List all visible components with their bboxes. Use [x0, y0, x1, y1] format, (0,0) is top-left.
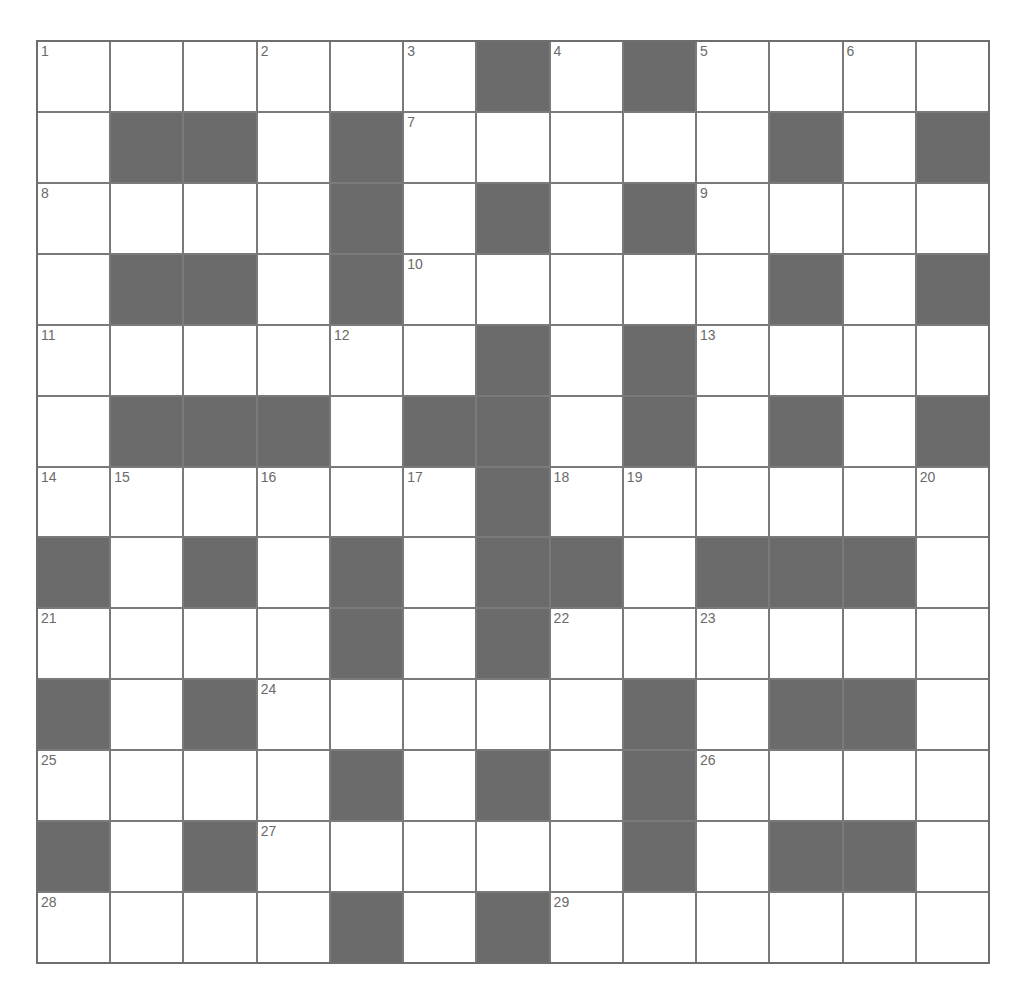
- answer-cell[interactable]: [551, 326, 622, 395]
- answer-cell[interactable]: [770, 468, 841, 537]
- answer-cell[interactable]: [697, 893, 768, 962]
- answer-cell[interactable]: [331, 822, 402, 891]
- answer-cell[interactable]: [38, 397, 109, 466]
- answer-cell[interactable]: [111, 893, 182, 962]
- answer-cell[interactable]: [258, 184, 329, 253]
- answer-cell[interactable]: [184, 751, 255, 820]
- answer-cell[interactable]: [551, 113, 622, 182]
- answer-cell[interactable]: [111, 538, 182, 607]
- answer-cell[interactable]: 9: [697, 184, 768, 253]
- answer-cell[interactable]: [770, 42, 841, 111]
- answer-cell[interactable]: [844, 326, 915, 395]
- answer-cell[interactable]: [917, 326, 988, 395]
- answer-cell[interactable]: [258, 113, 329, 182]
- answer-cell[interactable]: [331, 397, 402, 466]
- answer-cell[interactable]: [258, 893, 329, 962]
- answer-cell[interactable]: [477, 113, 548, 182]
- answer-cell[interactable]: 13: [697, 326, 768, 395]
- answer-cell[interactable]: [844, 184, 915, 253]
- answer-cell[interactable]: 15: [111, 468, 182, 537]
- answer-cell[interactable]: [844, 113, 915, 182]
- answer-cell[interactable]: [551, 751, 622, 820]
- answer-cell[interactable]: [551, 822, 622, 891]
- answer-cell[interactable]: [111, 326, 182, 395]
- answer-cell[interactable]: 7: [404, 113, 475, 182]
- answer-cell[interactable]: [844, 751, 915, 820]
- answer-cell[interactable]: [770, 751, 841, 820]
- answer-cell[interactable]: 3: [404, 42, 475, 111]
- answer-cell[interactable]: 1: [38, 42, 109, 111]
- answer-cell[interactable]: 5: [697, 42, 768, 111]
- answer-cell[interactable]: 21: [38, 609, 109, 678]
- answer-cell[interactable]: [697, 468, 768, 537]
- answer-cell[interactable]: 22: [551, 609, 622, 678]
- answer-cell[interactable]: [624, 255, 695, 324]
- answer-cell[interactable]: [477, 255, 548, 324]
- answer-cell[interactable]: [404, 538, 475, 607]
- answer-cell[interactable]: [184, 893, 255, 962]
- answer-cell[interactable]: [111, 42, 182, 111]
- answer-cell[interactable]: [917, 538, 988, 607]
- answer-cell[interactable]: [697, 113, 768, 182]
- answer-cell[interactable]: [844, 397, 915, 466]
- answer-cell[interactable]: 27: [258, 822, 329, 891]
- answer-cell[interactable]: 17: [404, 468, 475, 537]
- answer-cell[interactable]: [184, 468, 255, 537]
- answer-cell[interactable]: 2: [258, 42, 329, 111]
- answer-cell[interactable]: [697, 680, 768, 749]
- answer-cell[interactable]: [917, 184, 988, 253]
- answer-cell[interactable]: 16: [258, 468, 329, 537]
- answer-cell[interactable]: 28: [38, 893, 109, 962]
- answer-cell[interactable]: [917, 42, 988, 111]
- answer-cell[interactable]: [624, 113, 695, 182]
- answer-cell[interactable]: [551, 680, 622, 749]
- answer-cell[interactable]: [624, 538, 695, 607]
- answer-cell[interactable]: [404, 326, 475, 395]
- answer-cell[interactable]: [184, 184, 255, 253]
- answer-cell[interactable]: [551, 397, 622, 466]
- answer-cell[interactable]: [404, 822, 475, 891]
- answer-cell[interactable]: [844, 893, 915, 962]
- answer-cell[interactable]: [258, 538, 329, 607]
- answer-cell[interactable]: [917, 609, 988, 678]
- answer-cell[interactable]: [111, 822, 182, 891]
- answer-cell[interactable]: [111, 680, 182, 749]
- answer-cell[interactable]: [111, 751, 182, 820]
- answer-cell[interactable]: 26: [697, 751, 768, 820]
- answer-cell[interactable]: [551, 255, 622, 324]
- answer-cell[interactable]: 12: [331, 326, 402, 395]
- answer-cell[interactable]: [770, 184, 841, 253]
- answer-cell[interactable]: [404, 680, 475, 749]
- answer-cell[interactable]: 6: [844, 42, 915, 111]
- answer-cell[interactable]: [624, 893, 695, 962]
- answer-cell[interactable]: [38, 113, 109, 182]
- answer-cell[interactable]: [331, 42, 402, 111]
- answer-cell[interactable]: 11: [38, 326, 109, 395]
- answer-cell[interactable]: 14: [38, 468, 109, 537]
- answer-cell[interactable]: [258, 751, 329, 820]
- answer-cell[interactable]: [844, 609, 915, 678]
- answer-cell[interactable]: [331, 680, 402, 749]
- answer-cell[interactable]: [404, 751, 475, 820]
- answer-cell[interactable]: [111, 609, 182, 678]
- answer-cell[interactable]: [38, 255, 109, 324]
- answer-cell[interactable]: [917, 680, 988, 749]
- answer-cell[interactable]: [111, 184, 182, 253]
- answer-cell[interactable]: [477, 680, 548, 749]
- answer-cell[interactable]: 23: [697, 609, 768, 678]
- answer-cell[interactable]: [477, 822, 548, 891]
- answer-cell[interactable]: [770, 609, 841, 678]
- answer-cell[interactable]: 8: [38, 184, 109, 253]
- answer-cell[interactable]: [770, 326, 841, 395]
- answer-cell[interactable]: [258, 326, 329, 395]
- answer-cell[interactable]: 10: [404, 255, 475, 324]
- answer-cell[interactable]: 4: [551, 42, 622, 111]
- answer-cell[interactable]: [258, 609, 329, 678]
- answer-cell[interactable]: [624, 609, 695, 678]
- answer-cell[interactable]: [697, 397, 768, 466]
- answer-cell[interactable]: [184, 42, 255, 111]
- answer-cell[interactable]: 18: [551, 468, 622, 537]
- answer-cell[interactable]: [404, 184, 475, 253]
- answer-cell[interactable]: [258, 255, 329, 324]
- answer-cell[interactable]: [184, 609, 255, 678]
